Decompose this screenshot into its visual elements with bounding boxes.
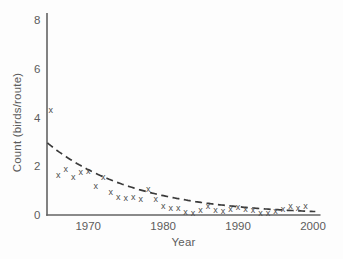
data-point-marker: x (93, 181, 98, 191)
data-point-marker: x (116, 192, 121, 202)
data-point-marker: x (56, 170, 61, 180)
data-point-marker: x (198, 205, 203, 215)
data-point-marker: x (266, 208, 271, 218)
data-point-marker: x (258, 208, 263, 218)
data-point-marker: x (153, 194, 158, 204)
y-tick-label: 4 (34, 112, 41, 124)
trend-line (47, 143, 315, 212)
data-point-marker: x (243, 204, 248, 214)
data-point-marker: x (176, 203, 181, 213)
data-point-marker: x (281, 204, 286, 214)
x-tick-label: 1990 (225, 220, 251, 232)
x-tick-label: 1980 (150, 220, 176, 232)
data-point-marker: x (101, 172, 106, 182)
data-point-marker: x (161, 201, 166, 211)
data-point-marker: x (86, 166, 91, 176)
data-point-marker: x (296, 203, 301, 213)
data-point-marker: x (168, 203, 173, 213)
y-tick-label: 6 (34, 63, 40, 75)
scatter-plot-figure: 024681970198019902000xxxxxxxxxxxxxxxxxxx… (0, 0, 343, 259)
data-point-marker: x (303, 201, 308, 211)
plot-svg: 024681970198019902000xxxxxxxxxxxxxxxxxxx… (0, 0, 343, 259)
data-point-marker: x (221, 206, 226, 216)
data-point-marker: x (236, 202, 241, 212)
data-point-marker: x (183, 207, 188, 217)
data-point-marker: x (78, 167, 83, 177)
data-point-marker: x (48, 105, 53, 115)
data-point-marker: x (71, 172, 76, 182)
x-tick-label: 1970 (75, 220, 101, 232)
data-point-marker: x (251, 205, 256, 215)
data-point-marker: x (213, 205, 218, 215)
data-point-marker: x (273, 206, 278, 216)
data-point-marker: x (146, 184, 151, 194)
y-tick-label: 0 (34, 209, 40, 221)
y-tick-label: 2 (34, 160, 40, 172)
data-point-marker: x (288, 201, 293, 211)
y-axis-title: Count (birds/route) (11, 58, 26, 188)
data-point-marker: x (228, 204, 233, 214)
data-point-marker: x (131, 192, 136, 202)
x-axis-title: Year (47, 236, 320, 251)
data-point-marker: x (191, 208, 196, 218)
data-point-marker: x (138, 194, 143, 204)
data-point-marker: x (123, 193, 128, 203)
data-point-marker: x (63, 164, 68, 174)
data-point-marker: x (206, 201, 211, 211)
data-point-marker: x (108, 187, 113, 197)
y-tick-label: 8 (34, 14, 40, 26)
x-tick-label: 2000 (300, 220, 326, 232)
